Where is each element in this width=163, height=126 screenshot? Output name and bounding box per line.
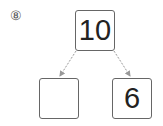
total-box: 10 <box>75 10 115 51</box>
arrow-left <box>60 51 76 76</box>
arrow-right <box>114 51 130 76</box>
missing-part-box[interactable] <box>39 78 79 119</box>
known-part-box: 6 <box>112 78 152 119</box>
